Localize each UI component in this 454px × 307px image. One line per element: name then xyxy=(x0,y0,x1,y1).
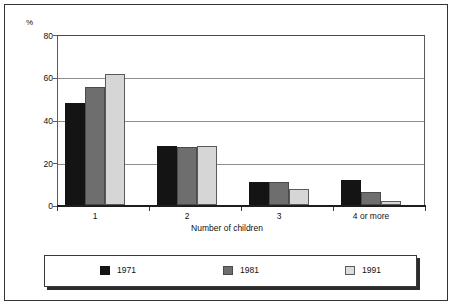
chart-figure: % 80 60 40 20 0 xyxy=(4,4,448,301)
bar-1981-children-1[interactable] xyxy=(85,87,105,205)
bar-1981-children-2[interactable] xyxy=(177,147,197,205)
y-tick-label-40: 40 xyxy=(25,117,53,126)
x-tick-label-1: 1 xyxy=(55,212,135,221)
bar-group-4 xyxy=(341,36,403,205)
bar-1971-children-3[interactable] xyxy=(249,182,269,205)
y-tick-label-60: 60 xyxy=(25,74,53,83)
legend-label-1971: 1971 xyxy=(117,266,136,275)
y-tick-label-80: 80 xyxy=(25,32,53,41)
bar-1971-children-2[interactable] xyxy=(157,146,177,205)
legend-item-1971[interactable]: 1971 xyxy=(100,266,136,275)
x-tick-label-3: 3 xyxy=(239,212,319,221)
bar-1991-children-1[interactable] xyxy=(105,74,125,205)
plot-container: % 80 60 40 20 0 xyxy=(5,5,449,245)
x-tick-label-2: 2 xyxy=(147,212,227,221)
bar-group-2 xyxy=(157,36,219,205)
y-tick-label-20: 20 xyxy=(25,160,53,169)
x-tick-mark-3 xyxy=(333,207,334,211)
x-tick-mark-start xyxy=(57,207,58,211)
legend-swatch-1991 xyxy=(345,266,355,275)
x-axis-title: Number of children xyxy=(5,224,449,233)
y-tick-label-0: 0 xyxy=(25,202,53,211)
bar-1981-children-3[interactable] xyxy=(269,182,289,205)
bar-1991-children-3[interactable] xyxy=(289,189,309,205)
bar-group-1 xyxy=(65,36,127,205)
x-tick-mark-2 xyxy=(241,207,242,211)
bar-group-3 xyxy=(249,36,311,205)
legend-label-1991: 1991 xyxy=(362,266,381,275)
legend-swatch-1971 xyxy=(100,266,110,275)
bar-1971-children-1[interactable] xyxy=(65,103,85,205)
legend-item-1981[interactable]: 1981 xyxy=(223,266,259,275)
bar-1981-children-4-or-more[interactable] xyxy=(361,192,381,205)
bar-1991-children-2[interactable] xyxy=(197,146,217,205)
y-axis-unit-label: % xyxy=(26,19,33,27)
bar-1971-children-4-or-more[interactable] xyxy=(341,180,361,205)
x-tick-mark-1 xyxy=(149,207,150,211)
legend-swatch-1981 xyxy=(223,266,233,275)
legend-label-1981: 1981 xyxy=(240,266,259,275)
legend-item-1991[interactable]: 1991 xyxy=(345,266,381,275)
x-tick-mark-end xyxy=(425,207,426,211)
x-tick-label-4-or-more: 4 or more xyxy=(331,212,411,221)
chart-legend: 1971 1981 1991 xyxy=(44,255,417,287)
plot-area xyxy=(57,35,425,206)
